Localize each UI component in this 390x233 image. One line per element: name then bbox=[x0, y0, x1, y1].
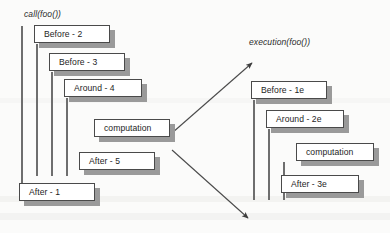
right-group-caption: execution(foo()) bbox=[249, 37, 310, 47]
call-box: Around - 4 bbox=[64, 79, 142, 97]
call-to-execution-bottom-arrow bbox=[172, 150, 248, 218]
call-box-label: Before - 3 bbox=[50, 57, 97, 67]
execution-box: After - 3e bbox=[281, 175, 359, 193]
scan-artifact bbox=[0, 213, 390, 220]
call-box-label: After - 1 bbox=[20, 187, 60, 197]
call-box: After - 5 bbox=[79, 152, 155, 170]
call-lifeline-4 bbox=[66, 98, 68, 176]
call-box: computation bbox=[94, 119, 170, 137]
call-box: After - 1 bbox=[19, 183, 95, 201]
diagram-canvas: call(foo()) execution(foo()) Before - 2B… bbox=[0, 0, 390, 233]
call-box-label: computation bbox=[95, 123, 151, 133]
execution-lifeline-2 bbox=[268, 129, 270, 200]
left-group-caption: call(foo()) bbox=[24, 9, 61, 19]
call-box: Before - 2 bbox=[34, 25, 110, 43]
call-box-label: Before - 2 bbox=[35, 29, 82, 39]
call-box-label: Around - 4 bbox=[65, 83, 115, 93]
execution-box-label: computation bbox=[297, 147, 353, 157]
call-lifeline-3 bbox=[51, 72, 53, 176]
execution-box-label: After - 3e bbox=[282, 179, 327, 189]
call-lifeline-2 bbox=[36, 44, 38, 176]
execution-box-label: Before - 1e bbox=[252, 85, 304, 95]
execution-box: Around - 2e bbox=[266, 110, 344, 128]
execution-lifeline-1 bbox=[253, 100, 255, 200]
execution-box-label: Around - 2e bbox=[267, 114, 321, 124]
call-box: Before - 3 bbox=[49, 53, 125, 71]
call-lifeline-1 bbox=[21, 26, 23, 183]
execution-box: computation bbox=[296, 143, 374, 161]
execution-box: Before - 1e bbox=[251, 81, 327, 99]
call-box-label: After - 5 bbox=[80, 156, 120, 166]
